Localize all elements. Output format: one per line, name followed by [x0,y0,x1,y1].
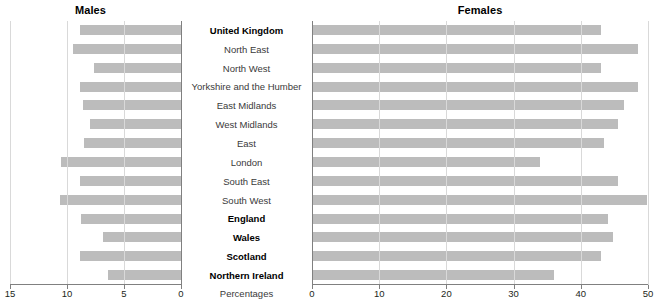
plot-area-males [10,21,181,285]
bar-row [312,59,648,78]
bar-males [61,157,181,167]
bar-rows-males [10,21,181,285]
bar-males [60,195,181,205]
bar-row [312,40,648,59]
category-label: West Midlands [181,115,312,134]
bar-males [94,63,181,73]
plot-area-females [312,21,648,285]
gridline-females-20 [446,21,447,285]
tick-label-females-30: 30 [508,288,519,299]
bar-row [10,115,181,134]
bar-row [312,172,648,191]
bar-females [312,138,604,148]
bar-row [10,191,181,210]
bar-females [312,251,601,261]
bar-row [312,247,648,266]
category-label: Wales [181,228,312,247]
bar-males [81,214,181,224]
bar-males [90,119,181,129]
bar-females [312,100,624,110]
gridline-males-5 [124,21,125,285]
bar-row [312,191,648,210]
bar-row [312,228,648,247]
bar-males [80,176,181,186]
bar-row [312,134,648,153]
bar-row [312,96,648,115]
bar-row [10,21,181,40]
category-label: Northern Ireland [181,266,312,285]
category-label-column: United KingdomNorth EastNorth WestYorksh… [181,21,312,285]
gridline-males-15 [10,21,11,285]
category-label: East Midlands [181,96,312,115]
bar-females [312,119,618,129]
tick-label-females-40: 40 [576,288,587,299]
gridline-females-30 [514,21,515,285]
bar-females [312,63,601,73]
bar-row [10,153,181,172]
category-label: United Kingdom [181,21,312,40]
bar-females [312,176,618,186]
gridline-females-40 [581,21,582,285]
category-label: North West [181,59,312,78]
category-label: South West [181,191,312,210]
tick-label-females-50: 50 [643,288,654,299]
bar-females [312,25,601,35]
bar-row [10,134,181,153]
category-label: England [181,210,312,229]
x-axis-males [10,284,181,285]
tick-label-females-10: 10 [374,288,385,299]
tick-label-males-10: 10 [62,288,73,299]
category-label: North East [181,40,312,59]
category-label: London [181,153,312,172]
bar-row [312,21,648,40]
bar-row [10,40,181,59]
bar-females [312,232,613,242]
panel-title-females: Females [312,4,648,16]
bar-row [312,78,648,97]
category-label: East [181,134,312,153]
bar-row [10,247,181,266]
bar-row [10,228,181,247]
bar-females [312,214,608,224]
tick-label-males-5: 5 [121,288,126,299]
bar-row [10,172,181,191]
bar-row [10,210,181,229]
x-axis-females [312,284,648,285]
bar-females [312,44,638,54]
bar-males [103,232,181,242]
bar-row [312,210,648,229]
gridline-females-10 [379,21,380,285]
bar-row [10,266,181,285]
bar-rows-females [312,21,648,285]
tick-label-females-20: 20 [441,288,452,299]
bar-males [80,25,181,35]
axis-caption: Percentages [181,288,312,299]
bar-males [80,251,181,261]
bar-females [312,157,540,167]
bar-row [10,59,181,78]
bar-row [312,266,648,285]
gridline-males-10 [67,21,68,285]
category-label: Yorkshire and the Humber [181,78,312,97]
bar-females [312,82,638,92]
bar-males [83,100,181,110]
bar-males [73,44,181,54]
bar-row [10,96,181,115]
pyramid-chart: Males Females United KingdomNorth EastNo… [0,0,660,308]
panel-title-males: Males [0,4,181,16]
bar-males [80,82,181,92]
gridline-females-0 [312,21,313,285]
bar-females [312,270,554,280]
bar-row [312,115,648,134]
tick-label-males-15: 15 [5,288,16,299]
bar-males [108,270,181,280]
bar-males [84,138,181,148]
bar-row [312,153,648,172]
category-label: South East [181,172,312,191]
bar-row [10,78,181,97]
category-label: Scotland [181,247,312,266]
bar-females [312,195,647,205]
gridline-females-50 [648,21,649,285]
